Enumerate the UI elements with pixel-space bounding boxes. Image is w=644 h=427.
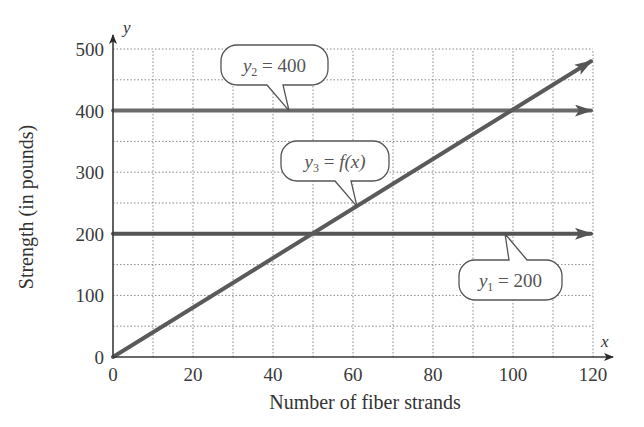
x-axis-title: Number of fiber strands: [269, 391, 461, 413]
chart: y x 0204060801001200100200300400500 y1 =…: [0, 0, 644, 427]
y-tick-label: 100: [76, 285, 105, 306]
x-tick-label: 100: [499, 364, 528, 385]
x-axis-variable-label: x: [600, 332, 609, 351]
y-tick-label: 200: [76, 224, 105, 245]
callout-label: y1 = 200: [477, 270, 542, 294]
y-tick-label: 400: [76, 101, 105, 122]
y-axis-variable-label: y: [121, 18, 131, 37]
y-tick-label: 300: [76, 162, 105, 183]
callouts: y1 = 200y2 = 400y3 = f(x): [221, 45, 562, 300]
y-tick-label: 0: [95, 347, 105, 368]
series-lines: [113, 61, 591, 357]
series-line-y3: [113, 61, 591, 357]
x-tick-label: 80: [424, 364, 443, 385]
x-tick-label: 120: [579, 364, 608, 385]
callout-y2: y2 = 400: [221, 45, 328, 111]
callout-label: y3 = f(x): [302, 151, 365, 175]
callout-y1: y1 = 200: [459, 234, 562, 300]
x-tick-label: 20: [184, 364, 203, 385]
y-tick-label: 500: [76, 39, 105, 60]
y-axis-title: Strength (in pounds): [15, 125, 38, 289]
x-tick-label: 60: [344, 364, 363, 385]
x-tick-label: 0: [108, 364, 118, 385]
callout-label: y2 = 400: [241, 55, 306, 79]
axes: y x: [113, 18, 613, 357]
x-tick-label: 40: [264, 364, 283, 385]
